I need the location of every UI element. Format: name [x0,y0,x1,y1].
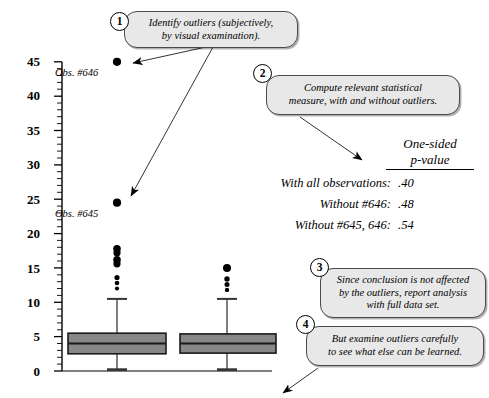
arrow-callout1-to-obs646 [133,47,206,63]
pvalue-row: With all observations: .40 [243,176,489,191]
pvalue-row: Without #646: .48 [243,197,489,212]
arrow-callout4-outward [283,368,318,393]
callout-4-text: But examine outliers carefully to see wh… [318,333,472,358]
callout-1[interactable]: Identify outliers (subjectively, by visu… [124,11,298,48]
pvalue-table-header: One-sided p-value [386,136,474,170]
callout-badge-2: 2 [253,64,272,83]
y-tick-label-5: 5 [14,330,40,343]
callout-badge-3: 3 [310,258,329,277]
arrow-callout1-to-obs645 [131,47,213,196]
y-tick-label-35: 35 [14,124,40,137]
y-tick-label-30: 30 [14,158,40,171]
pvalue-row-value: .40 [398,176,438,191]
obs-label-646: Obs. #646 [55,67,98,78]
y-tick-label-40: 40 [14,89,40,102]
pvalue-row-label: With all observations: [243,176,398,191]
pvalue-row-label: Without #645, 646: [243,218,398,233]
outlier-points [223,264,231,292]
outlier-points [113,58,121,291]
figure-root: 45 40 35 30 25 20 15 10 5 0 Obs. #646 Ob… [0,0,489,398]
pvalue-header-line2: p-value [386,152,474,168]
callout-3[interactable]: Since conclusion is not affected by the … [320,268,486,318]
y-tick-label-0: 0 [14,365,40,378]
obs-label-645: Obs. #645 [55,208,98,219]
callout-3-text: Since conclusion is not affected by the … [327,274,479,312]
pvalue-row-label: Without #646: [243,197,398,212]
pvalue-row: Without #645, 646: .54 [243,218,489,233]
y-tick-label-20: 20 [14,227,40,240]
callout-2[interactable]: Compute relevant statistical measure, wi… [266,75,460,115]
callout-4[interactable]: But examine outliers carefully to see wh… [306,326,484,366]
callout-badge-4: 4 [296,315,315,334]
pvalue-row-value: .48 [398,197,438,212]
y-tick-label-15: 15 [14,262,40,275]
callout-badge-1: 1 [110,12,129,31]
boxplot-group-2 [180,264,276,370]
y-tick-label-45: 45 [14,55,40,68]
outlier-point-646 [113,58,121,66]
y-tick-label-10: 10 [14,296,40,309]
pvalue-row-value: .54 [398,218,438,233]
y-tick-label-25: 25 [14,193,40,206]
callout-2-text: Compute relevant statistical measure, wi… [279,82,447,107]
pvalue-header-line1: One-sided [386,136,474,152]
outlier-point-645 [113,199,121,207]
callout-1-text: Identify outliers (subjectively, by visu… [139,17,284,42]
pvalue-table: One-sided p-value With all observations:… [243,136,489,233]
